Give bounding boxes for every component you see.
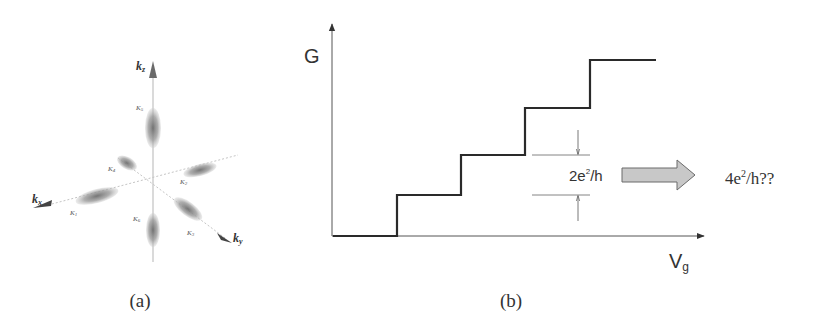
valley-label-k5: K5 (135, 104, 144, 112)
valley-k3 (170, 193, 206, 225)
step-height-label: 2e2/h (569, 167, 603, 184)
panel-b-conductance-plot: G Vg 2e2/h 4e2/h?? (304, 24, 774, 274)
panel-a-valleys-diagram: kz kx ky K5 K4 K2 K1 K6 K3 (32, 59, 243, 262)
valley-label-k1: K1 (69, 209, 77, 217)
kx-label: kx (32, 192, 42, 207)
valley-k1 (74, 184, 120, 209)
valley-label-k6: K6 (132, 215, 141, 223)
valley-k6 (146, 213, 160, 247)
valley-label-k3: K3 (186, 229, 195, 237)
valley-label-k2: K2 (179, 178, 188, 186)
figure: kz kx ky K5 K4 K2 K1 K6 K3 (a) (0, 0, 835, 333)
y-axis-label: G (304, 45, 320, 67)
ky-arrowhead-icon (217, 233, 232, 243)
panel-a-caption: (a) (129, 290, 150, 312)
ky-label: ky (233, 231, 243, 246)
valley-k4 (114, 152, 139, 173)
question-annotation: 4e2/h?? (725, 168, 774, 188)
panel-b-caption: (b) (500, 290, 522, 312)
figure-svg: kz kx ky K5 K4 K2 K1 K6 K3 (a) (0, 0, 835, 333)
block-right-arrow-icon (622, 160, 695, 190)
conductance-staircase (333, 60, 656, 236)
kz-label: kz (136, 59, 146, 74)
valley-k2 (182, 160, 218, 180)
x-axis-label: Vg (669, 250, 689, 274)
valley-label-k4: K4 (107, 165, 116, 173)
kz-arrowhead-icon (149, 61, 157, 78)
valley-k5 (145, 108, 161, 148)
kx-axis-line (48, 155, 238, 205)
